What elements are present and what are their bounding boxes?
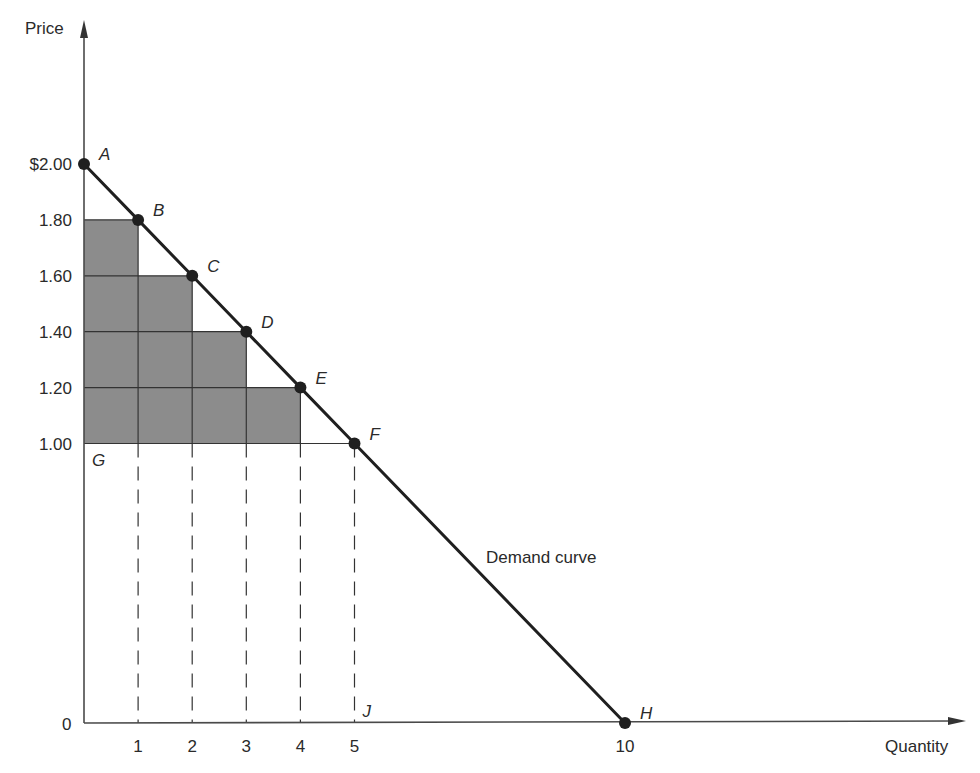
x-tick: 2: [187, 737, 196, 756]
x-axis-arrow-icon: [948, 717, 966, 725]
x-axis-label: Quantity: [885, 737, 949, 756]
x-tick: 3: [242, 737, 251, 756]
point-C: [186, 270, 198, 282]
x-axis: [84, 721, 955, 723]
x-tick: 4: [296, 737, 305, 756]
y-tick-labels: $2.001.801.601.401.201.00: [29, 155, 72, 454]
point-B: [132, 214, 144, 226]
y-axis-label: Price: [25, 19, 64, 38]
y-tick: 1.80: [39, 211, 72, 230]
x-tick-labels: 1234510: [133, 737, 634, 756]
reference-point-labels: GJ: [92, 451, 372, 722]
point-label: B: [153, 201, 164, 220]
y-tick: $2.00: [29, 155, 72, 174]
point-F: [349, 438, 361, 450]
surplus-step: [246, 388, 300, 444]
ref-label-G: G: [92, 451, 105, 470]
dashed-quantity-lines: [138, 444, 354, 724]
demand-curve-chart: Price Quantity 0 $2.001.801.601.401.201.…: [0, 0, 980, 773]
point-A: [78, 158, 90, 170]
ref-label-J: J: [362, 702, 372, 721]
surplus-step: [138, 276, 192, 444]
y-tick: 1.00: [39, 435, 72, 454]
point-label: C: [207, 257, 220, 276]
x-tick: 5: [350, 737, 359, 756]
y-tick: 1.20: [39, 379, 72, 398]
point-label: D: [261, 313, 273, 332]
y-tick: 1.60: [39, 267, 72, 286]
point-label: F: [370, 425, 382, 444]
point-label: A: [98, 145, 110, 164]
point-D: [240, 326, 252, 338]
demand-curve-annotation: Demand curve: [486, 548, 597, 567]
x-tick: 10: [616, 737, 635, 756]
point-H: [619, 717, 631, 729]
origin-label: 0: [62, 715, 71, 734]
point-E: [294, 382, 306, 394]
point-label: H: [640, 704, 653, 723]
y-axis-arrow-icon: [80, 20, 88, 38]
x-tick: 1: [133, 737, 142, 756]
y-tick: 1.40: [39, 323, 72, 342]
point-label: E: [315, 369, 327, 388]
